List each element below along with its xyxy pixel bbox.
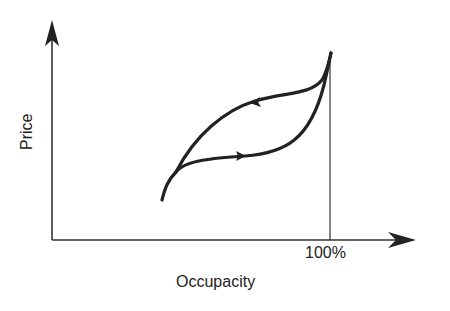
capacity-marker-label: 100% — [305, 244, 346, 262]
x-axis-label: Occupacity — [176, 273, 255, 291]
y-axis-label: Price — [18, 114, 36, 150]
rising-curve — [176, 53, 331, 172]
curve-tail — [162, 172, 176, 200]
hysteresis-diagram — [0, 0, 450, 311]
